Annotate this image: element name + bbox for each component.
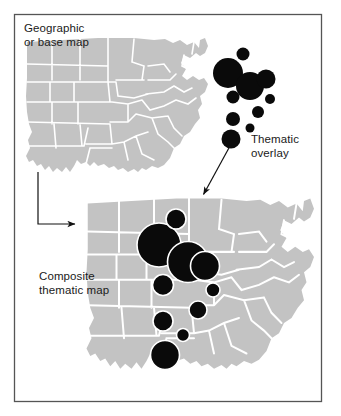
proportional-symbol [226, 112, 240, 126]
proportional-symbol [191, 252, 220, 281]
proportional-symbol [153, 311, 173, 331]
proportional-symbol [252, 106, 264, 118]
proportional-symbol [222, 130, 241, 149]
proportional-symbol [206, 283, 220, 297]
proportional-symbol [257, 70, 276, 89]
proportional-symbol [265, 94, 275, 104]
proportional-symbol [177, 329, 190, 342]
label-composite-thematic-map: Composite thematic map [39, 270, 109, 297]
proportional-symbol [166, 209, 186, 229]
map-overlay-diagram: Geographic or base map Thematic overlay … [0, 0, 341, 416]
diagram-canvas [0, 0, 341, 416]
label-geographic-base-map: Geographic or base map [24, 22, 89, 49]
proportional-symbol [227, 91, 240, 104]
proportional-symbol [153, 275, 174, 296]
proportional-symbol [189, 301, 207, 319]
label-thematic-overlay: Thematic overlay [251, 133, 299, 160]
proportional-symbol [151, 341, 180, 370]
proportional-symbol [237, 48, 250, 61]
proportional-symbol [246, 124, 255, 133]
